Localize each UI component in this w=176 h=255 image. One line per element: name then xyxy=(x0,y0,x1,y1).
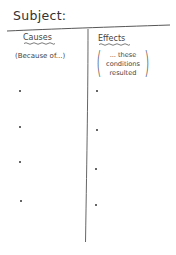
effects-prompt-line: resulted xyxy=(95,69,151,78)
causes-underline xyxy=(24,43,55,45)
effects-underline xyxy=(99,44,130,46)
causes-bullet xyxy=(19,90,21,92)
header-rule xyxy=(7,25,170,31)
effects-bullet xyxy=(95,168,97,170)
effects-prompt: ... these conditions resulted xyxy=(95,51,151,78)
effects-prompt-line: conditions xyxy=(95,60,151,69)
causes-prompt: (Because of...) xyxy=(15,52,65,60)
effects-heading: Effects xyxy=(98,34,125,43)
effects-bullet xyxy=(95,204,97,206)
column-divider xyxy=(86,29,89,242)
effects-bullet xyxy=(96,90,98,92)
effects-bullet xyxy=(96,129,98,131)
causes-heading: Causes xyxy=(23,33,52,42)
causes-bullet xyxy=(20,200,22,202)
causes-bullet xyxy=(19,161,21,163)
causes-bullet xyxy=(19,126,21,128)
effects-prompt-line: ... these xyxy=(95,51,151,60)
